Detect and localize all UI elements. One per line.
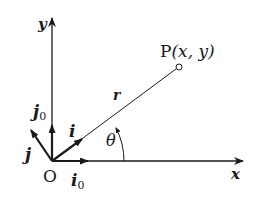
vector-j-label: j [22, 144, 32, 164]
polar-coordinate-diagram: y x O P(x, y) r θ i0 j0 i j [0, 0, 262, 203]
vector-i0-label: i0 [71, 170, 84, 192]
angle-theta-label: θ [106, 131, 116, 150]
vector-j [31, 130, 52, 161]
origin-label: O [43, 166, 57, 186]
point-p-label: P(x, y) [160, 41, 215, 61]
vector-i-label: i [69, 121, 75, 141]
point-p-marker [176, 64, 182, 70]
vector-j0-label: j0 [30, 101, 46, 123]
radius-label: r [113, 87, 122, 103]
vector-i [52, 139, 82, 161]
x-axis-label: x [230, 165, 241, 183]
y-axis-label: y [37, 15, 48, 33]
angle-arc [116, 128, 124, 161]
